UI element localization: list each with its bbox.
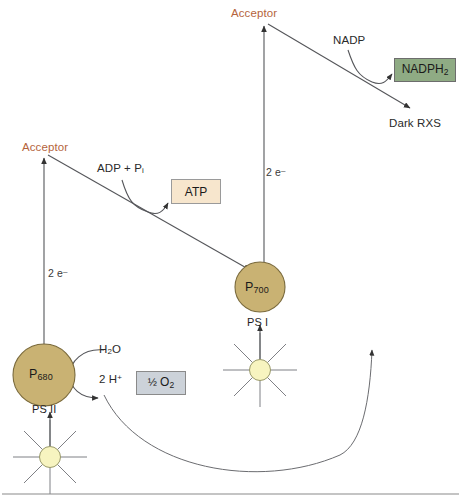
- electron-return-curve: [104, 350, 372, 472]
- z-scheme-diagram: Acceptor Acceptor 2 e– 2 e– ADP + Pi ATP…: [0, 0, 461, 503]
- protons-label: 2 H+: [99, 374, 122, 386]
- water-label: H2O: [99, 344, 121, 356]
- electrons-left-charge: –: [63, 267, 68, 276]
- adp-pi-label: ADP + Pi: [97, 163, 144, 175]
- photosystem-2-label: PS II: [32, 404, 56, 415]
- oxygen-product-box: ½ O2: [136, 371, 186, 395]
- electrons-left-label: 2 e–: [48, 268, 67, 279]
- p680-label: P680: [29, 368, 53, 382]
- p680-subscript: 680: [37, 372, 52, 382]
- electrons-right-charge: –: [281, 166, 286, 175]
- nadp-to-nadph-arrow-segment: [372, 74, 392, 84]
- dark-reactions-label: Dark RXS: [389, 118, 441, 130]
- nadp-to-nadph-curve: [348, 50, 372, 82]
- ps1-sun-core: [250, 360, 271, 381]
- adp-to-atp-curve: [122, 180, 148, 212]
- diagram-canvas: [0, 0, 461, 503]
- nadph2-text: NADPH: [402, 62, 444, 76]
- adp-to-atp-arrow-segment: [148, 203, 168, 214]
- protons-text: 2 H: [99, 373, 117, 385]
- adp-pi-text: ADP + P: [97, 162, 142, 174]
- water-oxygen: O: [112, 343, 121, 355]
- atp-product-box: ATP: [171, 179, 221, 204]
- oxygen-fraction: ½: [148, 376, 160, 388]
- atp-label: ATP: [185, 186, 207, 198]
- p700-label: P700: [245, 281, 269, 295]
- ps2-sun-core: [40, 447, 61, 468]
- photosystem-1-label: PS I: [247, 317, 268, 328]
- nadph2-label: NADPH2: [402, 63, 449, 77]
- acceptor-right-label: Acceptor: [231, 8, 277, 20]
- electrons-right-text: 2 e: [266, 166, 281, 178]
- p700-subscript: 700: [253, 285, 268, 295]
- electrons-left-text: 2 e: [48, 267, 63, 279]
- adp-pi-subscript: i: [142, 166, 144, 175]
- electrons-right-label: 2 e–: [266, 167, 285, 178]
- protons-charge: +: [117, 373, 122, 382]
- nadph2-product-box: NADPH2: [394, 58, 456, 82]
- nadph2-subscript: 2: [444, 67, 449, 77]
- oxygen-subscript: 2: [169, 380, 174, 390]
- acceptor-left-label: Acceptor: [22, 142, 68, 154]
- nadp-label: NADP: [333, 35, 365, 47]
- oxygen-label: ½ O2: [148, 376, 174, 390]
